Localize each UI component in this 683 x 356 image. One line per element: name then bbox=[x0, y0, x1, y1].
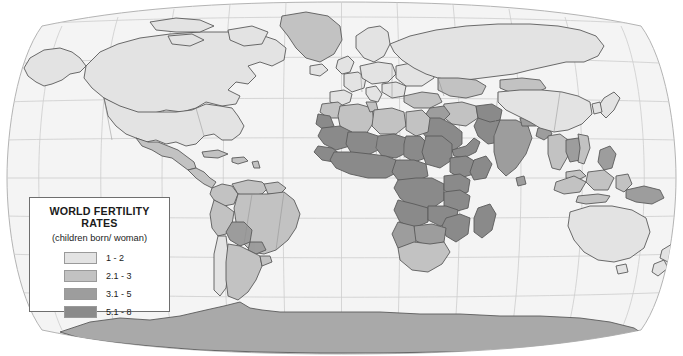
legend-subtitle: (children born/ woman) bbox=[36, 233, 163, 243]
country-libya bbox=[372, 108, 406, 134]
world-fertility-map-figure: WORLD FERTILITY RATES (children born/ wo… bbox=[0, 0, 683, 356]
legend-label-1: 1 - 2 bbox=[106, 252, 124, 264]
legend-swatch-4 bbox=[64, 306, 97, 318]
legend-label-4: 5.1 - 8 bbox=[106, 306, 132, 318]
country-egypt bbox=[406, 110, 430, 136]
legend-label-3: 3.1 - 5 bbox=[106, 288, 132, 300]
country-tasmania bbox=[616, 264, 628, 274]
legend-swatch-1 bbox=[64, 252, 97, 264]
country-korea bbox=[592, 102, 602, 114]
legend-label-2: 2.1 - 3 bbox=[106, 270, 132, 282]
map-legend: WORLD FERTILITY RATES (children born/ wo… bbox=[29, 197, 170, 312]
legend-title: WORLD FERTILITY RATES bbox=[40, 205, 158, 229]
legend-swatch-3 bbox=[64, 288, 97, 300]
legend-row: 2.1 - 3 bbox=[36, 268, 163, 284]
legend-row: 1 - 2 bbox=[36, 250, 163, 266]
legend-row: 5.1 - 8 bbox=[36, 304, 163, 320]
legend-swatch-2 bbox=[64, 270, 97, 282]
country-sudan bbox=[422, 136, 452, 168]
legend-row: 3.1 - 5 bbox=[36, 286, 163, 302]
country-indonesia-java bbox=[576, 194, 610, 204]
legend-items: 1 - 2 2.1 - 3 3.1 - 5 5.1 - 8 bbox=[36, 250, 163, 320]
country-sri-lanka bbox=[516, 176, 526, 186]
country-niger bbox=[376, 134, 408, 158]
